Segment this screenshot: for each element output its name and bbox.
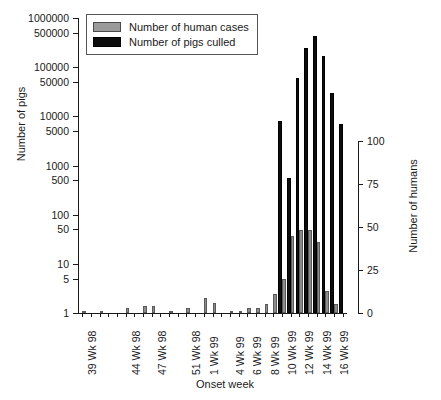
x-tick <box>256 313 257 317</box>
y-axis-left-title: Number of pigs <box>15 59 27 189</box>
x-tick <box>178 313 179 317</box>
x-tick <box>204 313 205 317</box>
y-tick-left-label: 5000 <box>46 126 69 136</box>
y-tick-right-label: 25 <box>367 265 379 275</box>
x-tick <box>100 313 101 317</box>
x-tick <box>152 313 153 317</box>
bar-pigs-culled <box>322 56 326 313</box>
y-tick-left-label: 500000 <box>34 28 69 38</box>
y-tick-left-label: 1 <box>63 308 69 318</box>
y-tick-right <box>358 141 363 142</box>
x-tick <box>325 313 326 317</box>
bar-human-cases <box>143 306 147 313</box>
x-tick-label: 10 Wk 99 <box>286 331 298 375</box>
x-tick <box>265 313 266 317</box>
y-tick-right-label: 0 <box>367 308 373 318</box>
bar-human-cases <box>282 279 286 313</box>
bar-human-cases <box>204 298 208 313</box>
y-tick-left-label: 10000 <box>40 111 69 121</box>
y-tick-right <box>358 270 363 271</box>
x-tick <box>126 313 127 317</box>
x-tick <box>169 313 170 317</box>
gray-swatch-icon <box>93 22 121 32</box>
y-tick-right <box>358 184 363 185</box>
y-tick-left <box>73 313 78 314</box>
legend-label: Number of pigs culled <box>129 36 235 48</box>
x-tick-label: 6 Wk 99 <box>251 336 263 375</box>
bar-human-cases <box>265 304 269 313</box>
x-tick <box>117 313 118 317</box>
x-tick <box>334 313 335 317</box>
bar-pigs-culled <box>339 124 343 313</box>
chart-legend: Number of human cases Number of pigs cul… <box>86 14 258 55</box>
bar-human-cases <box>247 308 251 313</box>
x-tick-label: 47 Wk 98 <box>156 331 168 375</box>
y-tick-right-label: 75 <box>367 179 379 189</box>
x-tick <box>230 313 231 317</box>
y-tick-right <box>358 313 363 314</box>
x-tick <box>299 313 300 317</box>
bar-human-cases <box>334 304 338 313</box>
x-tick <box>282 313 283 317</box>
bar-human-cases <box>213 303 217 313</box>
y-tick-right-label: 100 <box>367 136 385 146</box>
y-tick-left-label: 50 <box>57 224 69 234</box>
bar-human-cases <box>230 311 234 313</box>
x-tick <box>195 313 196 317</box>
x-tick <box>160 313 161 317</box>
x-tick-label: 44 Wk 98 <box>130 331 142 375</box>
epidemic-curve-chart: Number of pigs Number of humans Onset we… <box>0 0 441 400</box>
x-tick <box>247 313 248 317</box>
bar-human-cases <box>291 236 295 313</box>
black-swatch-icon <box>93 37 121 47</box>
x-tick <box>291 313 292 317</box>
bar-human-cases <box>126 308 130 313</box>
legend-label: Number of human cases <box>129 21 249 33</box>
x-tick <box>308 313 309 317</box>
bar-human-cases <box>256 308 260 313</box>
bar-human-cases <box>169 311 173 313</box>
x-tick <box>91 313 92 317</box>
y-tick-left-label: 1000000 <box>28 13 69 23</box>
y-tick-left-label: 100 <box>51 210 69 220</box>
x-axis-title: Onset week <box>90 378 360 390</box>
x-tick <box>343 313 344 317</box>
x-tick-label: 39 Wk 98 <box>86 331 98 375</box>
bar-human-cases <box>273 294 277 313</box>
x-tick <box>317 313 318 317</box>
x-tick <box>186 313 187 317</box>
x-tick-label: 12 Wk 99 <box>303 331 315 375</box>
legend-item-pigs-culled: Number of pigs culled <box>93 35 249 49</box>
x-tick <box>213 313 214 317</box>
y-tick-left-label: 1000 <box>46 161 69 171</box>
x-tick-label: 1 Wk 99 <box>208 336 220 375</box>
x-tick <box>273 313 274 317</box>
x-tick <box>143 313 144 317</box>
x-tick-label: 51 Wk 98 <box>190 331 202 375</box>
y-tick-left-label: 100000 <box>34 62 69 72</box>
bar-human-cases <box>100 311 104 313</box>
y-tick-left-label: 10 <box>57 259 69 269</box>
y-tick-right <box>358 227 363 228</box>
x-tick <box>221 313 222 317</box>
y-tick-right-label: 50 <box>367 222 379 232</box>
x-tick <box>239 313 240 317</box>
y-tick-left-label: 50000 <box>40 77 69 87</box>
x-tick-label: 16 Wk 99 <box>338 331 350 375</box>
y-tick-left-label: 5 <box>63 274 69 284</box>
bar-human-cases <box>152 306 156 313</box>
bar-human-cases <box>299 230 303 313</box>
x-tick-label: 14 Wk 99 <box>321 331 333 375</box>
bar-human-cases <box>325 291 329 313</box>
x-tick <box>134 313 135 317</box>
bar-human-cases <box>308 230 312 313</box>
y-axis-right-title: Number of humans <box>407 131 419 281</box>
bar-human-cases <box>186 308 190 313</box>
x-tick-label: 4 Wk 99 <box>234 336 246 375</box>
x-tick <box>82 313 83 317</box>
bar-human-cases <box>239 311 243 313</box>
x-tick-label: 8 Wk 99 <box>269 336 281 375</box>
y-tick-left-label: 500 <box>51 175 69 185</box>
legend-item-human-cases: Number of human cases <box>93 20 249 34</box>
bar-pigs-culled <box>330 93 334 313</box>
